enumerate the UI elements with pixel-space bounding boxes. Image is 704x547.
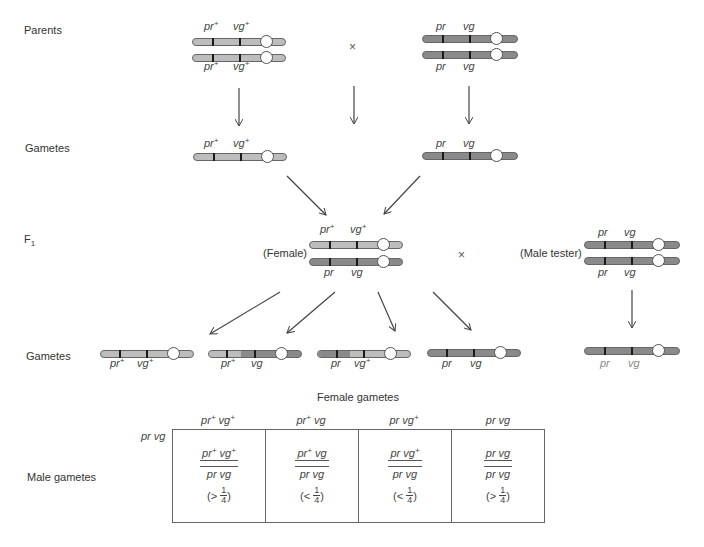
gene-label-vg-plus: vg+ xyxy=(350,223,366,235)
label-female-gametes: Female gametes xyxy=(317,391,399,403)
chromosome-mutant xyxy=(422,35,518,43)
gene-label-vg-plus: vg+ xyxy=(233,137,249,149)
centromere xyxy=(260,35,273,48)
ratio: (>14) xyxy=(486,486,510,505)
gene-label-vg: vg xyxy=(251,357,263,369)
centromere xyxy=(377,238,390,251)
centromere xyxy=(652,238,665,251)
centromere xyxy=(167,347,180,360)
arrow-f1-to-gamete2 xyxy=(287,292,335,333)
tester-chromosome-mutant xyxy=(584,257,680,265)
gene-label-vg: vg xyxy=(463,137,475,149)
gene-label-pr-plus: pr+ xyxy=(204,137,218,149)
arrow-gamete2-to-f1 xyxy=(384,176,420,214)
arrow-f1-to-gamete1 xyxy=(210,292,280,334)
genotype: pr+ vg pr vg xyxy=(295,447,328,480)
gene-label-pr-plus: pr+ xyxy=(110,357,124,369)
gene-label-vg-plus: vg+ xyxy=(233,60,249,72)
chromosome-mutant xyxy=(422,51,518,59)
punnett-cell: pr+ vg+ pr vg (>14) xyxy=(173,430,266,523)
table-row: pr+ vg+ pr vg (>14) pr+ vg pr vg (<14) p… xyxy=(173,430,545,523)
genotype: pr vg+ pr vg xyxy=(388,447,421,480)
gene-label-vg-plus: vg+ xyxy=(137,357,153,369)
column-header: pr vg+ xyxy=(358,414,450,426)
gene-label-pr: pr xyxy=(436,137,446,149)
gene-label-pr: pr xyxy=(436,60,446,72)
gene-label-vg: vg xyxy=(624,266,636,278)
gene-label-pr: pr xyxy=(331,357,341,369)
gene-label-vg: vg xyxy=(470,357,482,369)
centromere xyxy=(652,254,665,267)
gene-label-vg: vg xyxy=(628,357,640,369)
gene-label-vg: vg xyxy=(463,20,475,32)
genotype: pr+ vg+ pr vg xyxy=(200,447,238,480)
tester-gamete-pr-vg xyxy=(584,347,680,355)
gene-label-pr: pr xyxy=(324,266,334,278)
label-female: (Female) xyxy=(263,247,307,259)
gene-label-pr: pr xyxy=(600,357,610,369)
row-header-male-gamete: pr vg xyxy=(141,430,165,442)
gene-label-vg: vg xyxy=(463,60,475,72)
chromosome-wildtype xyxy=(192,38,286,46)
gene-label-pr-plus: pr+ xyxy=(204,20,218,32)
arrow-gamete1-to-f1 xyxy=(287,176,326,215)
ratio: (<14) xyxy=(300,486,324,505)
gene-label-vg: vg xyxy=(624,226,636,238)
gene-label-vg-plus: vg+ xyxy=(354,357,370,369)
arrow-f1-to-gamete4 xyxy=(433,292,471,330)
centromere xyxy=(494,346,507,359)
label-male-tester: (Male tester) xyxy=(520,247,582,259)
gamete-chromosome-wildtype xyxy=(193,153,287,161)
centromere xyxy=(275,347,288,360)
column-header: pr vg xyxy=(452,414,544,426)
cross-symbol: × xyxy=(458,248,465,262)
gene-label-pr: pr xyxy=(598,266,608,278)
genotype: pr vg pr vg xyxy=(484,447,512,480)
ratio: (<14) xyxy=(393,486,417,505)
gene-label-pr-plus: pr+ xyxy=(221,357,235,369)
gene-label-vg-plus: vg+ xyxy=(233,20,249,32)
gamete-chromosome-mutant xyxy=(422,152,518,160)
gene-band-vg xyxy=(239,38,241,46)
centromere xyxy=(652,344,665,357)
centromere xyxy=(261,150,274,163)
centromere xyxy=(260,51,273,64)
punnett-cell: pr+ vg pr vg (<14) xyxy=(266,430,359,523)
tester-chromosome-mutant xyxy=(584,241,680,249)
column-header: pr+ vg xyxy=(265,414,357,426)
gene-label-vg: vg xyxy=(351,266,363,278)
f1-chromosome-wildtype xyxy=(309,241,403,249)
centromere xyxy=(490,149,503,162)
centromere xyxy=(490,32,503,45)
gene-label-pr: pr xyxy=(436,20,446,32)
punnett-square: pr+ vg+ pr vg (>14) pr+ vg pr vg (<14) p… xyxy=(172,429,545,523)
cross-symbol: × xyxy=(349,40,356,54)
ratio: (>14) xyxy=(207,486,231,505)
gene-label-pr-plus: pr+ xyxy=(320,223,334,235)
centromere xyxy=(384,347,397,360)
gene-label-pr: pr xyxy=(442,357,452,369)
gene-label-pr-plus: pr+ xyxy=(204,60,218,72)
column-header: pr+ vg+ xyxy=(172,414,264,426)
arrow-f1-to-gamete3 xyxy=(378,292,395,331)
gamete-pr-vg xyxy=(427,349,521,357)
punnett-cell: pr vg+ pr vg (<14) xyxy=(359,430,452,523)
centromere xyxy=(490,48,503,61)
punnett-cell: pr vg pr vg (>14) xyxy=(452,430,545,523)
f1-chromosome-mutant xyxy=(309,258,403,266)
gene-label-pr: pr xyxy=(598,226,608,238)
gene-band-pr xyxy=(212,38,214,46)
centromere xyxy=(377,255,390,268)
